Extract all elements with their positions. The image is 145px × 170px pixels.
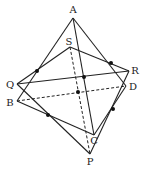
label-B: B xyxy=(6,97,13,108)
dot xyxy=(111,107,115,111)
dot xyxy=(109,61,113,65)
label-S: S xyxy=(66,36,73,47)
edge-BD-hidden xyxy=(17,86,126,101)
edge-BC xyxy=(17,101,94,135)
edge-SR xyxy=(70,47,129,71)
label-A: A xyxy=(68,4,77,15)
dot xyxy=(76,90,80,94)
label-C: C xyxy=(90,135,98,146)
edge-QR xyxy=(17,71,129,84)
edge-QP xyxy=(17,84,90,154)
label-Q: Q xyxy=(6,79,14,90)
dot xyxy=(82,75,86,79)
label-P: P xyxy=(87,156,94,167)
dot xyxy=(46,113,50,117)
tetrahedron-diagram: A S R D Q B C P xyxy=(0,0,145,170)
dot xyxy=(35,69,39,73)
edge-AB xyxy=(17,18,73,101)
label-D: D xyxy=(129,81,137,92)
label-R: R xyxy=(131,65,139,76)
